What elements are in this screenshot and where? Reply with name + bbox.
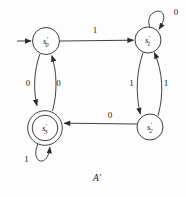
- edge-s1-loop-label: 0: [174, 7, 179, 17]
- automaton-svg: s′0 s′1 s′2 s′3 1 0 0 0 1 1 0 1 A′: [0, 0, 186, 197]
- diagram-caption: A′: [92, 173, 102, 183]
- edge-s3-self-loop: [36, 144, 50, 161]
- edge-s0-s3-label: 0: [26, 78, 31, 88]
- edge-s1-s2-label: 1: [129, 78, 134, 88]
- edge-s1-self-loop: [149, 11, 164, 29]
- edge-s3-loop-label: 1: [24, 154, 29, 164]
- edge-s2-to-s3: [64, 123, 137, 124]
- edge-s2-s3-label: 0: [108, 110, 113, 120]
- edge-s2-to-s1: [154, 53, 162, 116]
- edge-s0-to-s1: [60, 40, 134, 41]
- edge-s0-to-s3: [35, 54, 40, 106]
- edge-s3-s0-label: 0: [56, 78, 61, 88]
- edge-s2-s1-label: 1: [164, 78, 169, 88]
- automaton-diagram: s′0 s′1 s′2 s′3 1 0 0 0 1 1 0 1 A′: [0, 0, 186, 197]
- edge-s1-to-s2: [137, 53, 143, 114]
- edge-s0-s1-label: 1: [93, 25, 98, 35]
